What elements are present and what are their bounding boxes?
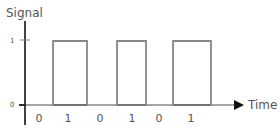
bit-label: 1 (65, 112, 72, 125)
x-axis-label: Time (247, 98, 277, 112)
bit-labels: 0 1 0 1 0 1 (36, 112, 195, 125)
bit-label: 0 (36, 112, 43, 125)
signal-waveform (53, 41, 211, 105)
digital-signal-diagram: Signal Time 1 0 0 1 0 1 0 1 (0, 0, 280, 135)
bit-label: 0 (97, 112, 104, 125)
bit-label: 1 (188, 112, 195, 125)
pulse-high (173, 41, 211, 105)
bit-label: 1 (129, 112, 136, 125)
y-tick-label-0: 0 (10, 101, 14, 109)
bit-label: 0 (156, 112, 163, 125)
x-axis-arrow-icon (234, 100, 244, 110)
pulse-high (117, 41, 146, 105)
pulse-high (53, 41, 87, 105)
y-axis-label: Signal (6, 6, 43, 20)
y-tick-label-1: 1 (10, 37, 14, 45)
